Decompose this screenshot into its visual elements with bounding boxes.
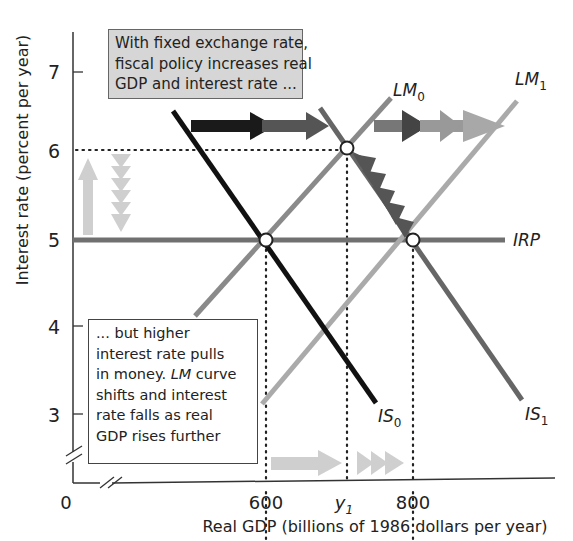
- lm0-label: LM0: [393, 80, 425, 104]
- lm1-curve: [262, 101, 517, 404]
- equilibrium-point-initial: [260, 234, 273, 247]
- y-axis-label: Interest rate (percent per year): [13, 35, 32, 286]
- y-tick-5: 5: [48, 229, 60, 251]
- is1-label: IS1: [525, 404, 548, 428]
- irp-label: IRP: [513, 230, 541, 250]
- x-axis-break-icon: [100, 477, 114, 488]
- down-arrow-icon: [111, 154, 131, 168]
- gdp-arrows: [271, 450, 404, 476]
- x-tick-600: 600: [249, 492, 283, 513]
- is0-label: IS0: [378, 406, 401, 430]
- adjustment-arrows: [353, 152, 414, 238]
- y-tick-6: 6: [48, 140, 60, 162]
- x-tick-0: 0: [60, 492, 71, 513]
- equilibrium-point-short-run: [341, 142, 354, 155]
- fiscal-policy-note: With fixed exchange rate, fiscal policy …: [108, 29, 303, 99]
- money-inflow-note: ... but higher interest rate pulls in mo…: [88, 319, 258, 464]
- fiscal-policy-arrows: [191, 110, 505, 142]
- up-arrow-icon: [78, 158, 98, 180]
- up-arrow-shaft: [83, 178, 93, 235]
- y-tick-3: 3: [48, 404, 60, 426]
- lm1-label: LM1: [515, 69, 547, 93]
- y-tick-7: 7: [48, 61, 60, 83]
- equilibrium-point-final: [407, 234, 420, 247]
- x-axis: [112, 478, 555, 483]
- interest-rate-arrows: [78, 154, 131, 235]
- x-tick-y1: y1: [334, 492, 353, 517]
- x-tick-800: 800: [396, 492, 430, 513]
- right-arrow-icon: [318, 450, 342, 476]
- y-axis-break-icon: [66, 446, 82, 456]
- y-tick-4: 4: [48, 316, 60, 338]
- x-axis-label: Real GDP (billions of 1986 dollars per y…: [202, 517, 547, 536]
